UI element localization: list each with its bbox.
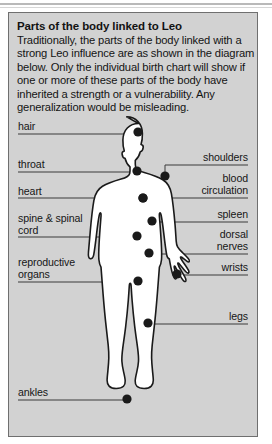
label-shoulders: shoulders <box>203 152 248 164</box>
top-divider-thick <box>0 3 272 5</box>
screenshot-root: Parts of the body linked to Leo Traditio… <box>0 0 272 444</box>
body-marker-spine-spinal-cord <box>132 231 141 240</box>
body-marker-reproductive-organs <box>133 276 142 285</box>
body-diagram: hairthroatheartspine & spinal cordreprod… <box>9 13 257 436</box>
panel-inner: Parts of the body linked to Leo Traditio… <box>9 13 257 436</box>
body-marker-throat <box>132 166 141 175</box>
body-marker-ankles <box>122 394 131 403</box>
body-silhouette-group <box>88 117 189 389</box>
label-blood-circulation: blood circulation <box>201 173 248 196</box>
body-marker-legs <box>143 318 152 327</box>
body-marker-spleen <box>147 216 156 225</box>
body-silhouette-path <box>88 117 189 389</box>
label-hair: hair <box>18 121 35 133</box>
body-marker-wrists <box>172 269 181 278</box>
body-marker-hair <box>133 127 142 136</box>
label-reproductive-organs: reproductive organs <box>18 257 75 280</box>
top-divider-thin <box>0 7 272 8</box>
label-heart: heart <box>18 186 42 198</box>
body-marker-blood-circulation <box>138 193 147 202</box>
label-spine-spinal-cord: spine & spinal cord <box>18 213 83 236</box>
label-ankles: ankles <box>18 387 48 399</box>
body-marker-shoulders <box>160 171 169 180</box>
label-legs: legs <box>229 311 248 323</box>
label-wrists: wrists <box>222 262 248 274</box>
label-dorsal-nerves: dorsal nerves <box>217 229 248 252</box>
body-marker-dorsal-nerves <box>144 248 153 257</box>
label-throat: throat <box>18 159 45 171</box>
label-spleen: spleen <box>217 209 248 221</box>
body-parts-panel: Parts of the body linked to Leo Traditio… <box>8 12 258 437</box>
